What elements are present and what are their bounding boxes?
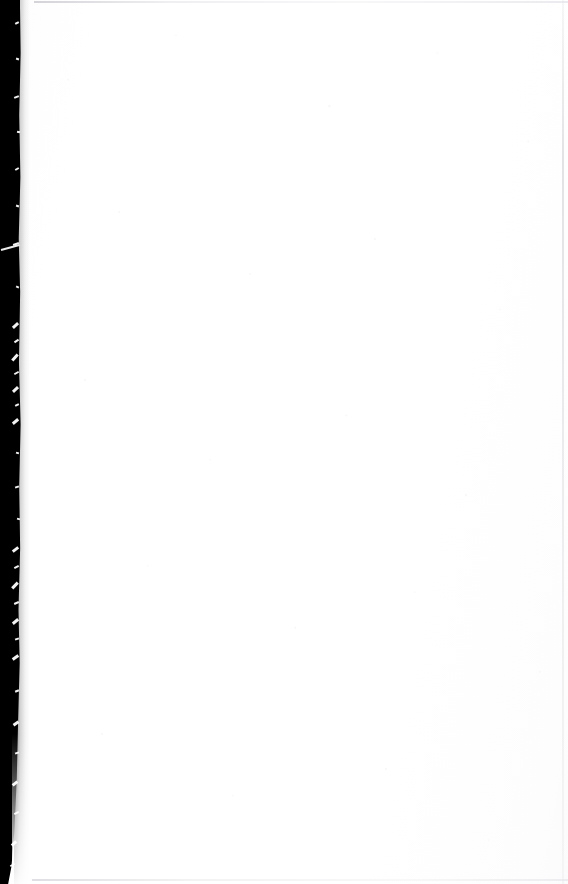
page-text-content (40, 40, 548, 864)
page-edge-right (562, 0, 564, 884)
binding-gutter-top-cap (0, 0, 20, 10)
page-edge-bottom (30, 879, 568, 881)
scanned-page (0, 0, 568, 884)
page-edge-top (34, 1, 568, 3)
